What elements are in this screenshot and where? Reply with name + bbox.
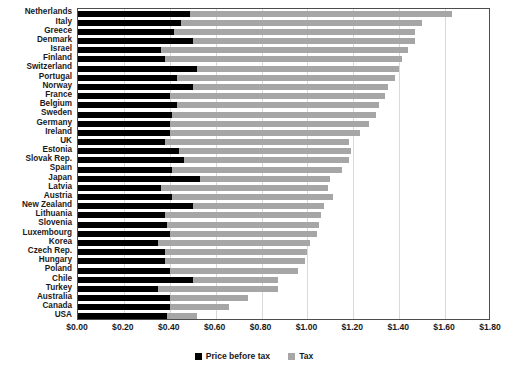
y-axis-label-sweden: Sweden	[41, 109, 72, 117]
bar-row	[78, 167, 342, 173]
bar-row	[78, 139, 349, 145]
y-axis-label-portugal: Portugal	[39, 73, 72, 81]
bar-segment-price-before-tax	[78, 66, 197, 72]
legend-item[interactable]: Price before tax	[195, 352, 270, 361]
legend-label: Price before tax	[206, 352, 270, 361]
bar-segment-tax	[170, 121, 370, 127]
bar-series-group	[78, 9, 489, 319]
bar-segment-price-before-tax	[78, 167, 172, 173]
bar-segment-price-before-tax	[78, 157, 184, 163]
bar-segment-price-before-tax	[78, 212, 165, 218]
bar-row	[78, 11, 452, 17]
y-axis-label-denmark: Denmark	[37, 36, 72, 44]
legend-swatch-icon	[288, 353, 295, 360]
y-axis-label-australia: Australia	[37, 293, 72, 301]
bar-segment-price-before-tax	[78, 11, 190, 17]
x-axis-tick-100: $1.00	[296, 322, 318, 332]
bar-segment-tax	[165, 212, 321, 218]
y-axis-label-new-zealand: New Zealand	[22, 201, 72, 209]
bar-segment-price-before-tax	[78, 249, 165, 255]
bar-segment-price-before-tax	[78, 47, 161, 53]
y-axis-label-korea: Korea	[49, 238, 72, 246]
bar-segment-tax	[158, 240, 309, 246]
bar-row	[78, 148, 351, 154]
bar-row	[78, 313, 197, 319]
x-axis-tick-120: $1.20	[342, 322, 364, 332]
bar-segment-tax	[193, 38, 416, 44]
bar-segment-tax	[193, 203, 324, 209]
bar-row	[78, 231, 317, 237]
y-axis-label-turkey: Turkey	[46, 284, 72, 292]
bar-segment-price-before-tax	[78, 75, 177, 81]
y-axis-label-spain: Spain	[50, 164, 72, 172]
y-axis-label-italy: Italy	[56, 18, 72, 26]
bar-row	[78, 75, 395, 81]
y-axis-label-luxembourg: Luxembourg	[22, 229, 72, 237]
bar-row	[78, 121, 369, 127]
bar-row	[78, 277, 278, 283]
bar-row	[78, 203, 324, 209]
bar-segment-price-before-tax	[78, 268, 170, 274]
x-axis-tick-040: $0.40	[158, 322, 180, 332]
legend-item[interactable]: Tax	[288, 352, 313, 361]
y-axis-label-poland: Poland	[45, 265, 72, 273]
bar-segment-price-before-tax	[78, 20, 181, 26]
legend-label: Tax	[299, 352, 313, 361]
y-axis-label-norway: Norway	[42, 82, 72, 90]
bar-segment-tax	[170, 231, 317, 237]
x-axis-tick-140: $1.40	[387, 322, 409, 332]
diesel-price-stacked-bar-chart: NetherlandsItalyGreeceDenmarkIsraelFinla…	[0, 0, 508, 367]
bar-segment-tax	[197, 66, 399, 72]
bar-row	[78, 304, 229, 310]
y-axis-label-czech-rep: Czech Rep.	[28, 247, 72, 255]
bar-row	[78, 240, 310, 246]
y-axis-label-france: France	[45, 91, 72, 99]
bar-segment-price-before-tax	[78, 112, 172, 118]
bar-row	[78, 112, 376, 118]
bar-segment-price-before-tax	[78, 313, 167, 319]
bar-row	[78, 56, 402, 62]
y-axis-label-finland: Finland	[43, 54, 72, 62]
bar-row	[78, 212, 321, 218]
bar-segment-price-before-tax	[78, 194, 172, 200]
bar-segment-tax	[167, 222, 318, 228]
bar-segment-tax	[181, 20, 422, 26]
bar-segment-tax	[179, 148, 351, 154]
bar-segment-price-before-tax	[78, 222, 167, 228]
bar-segment-tax	[200, 176, 331, 182]
bar-row	[78, 66, 399, 72]
plot-area	[77, 8, 490, 320]
bar-segment-price-before-tax	[78, 295, 170, 301]
bar-segment-tax	[177, 102, 379, 108]
bar-segment-price-before-tax	[78, 139, 165, 145]
bar-segment-tax	[184, 157, 349, 163]
y-axis-label-usa: USA	[55, 311, 72, 319]
bar-segment-tax	[190, 11, 452, 17]
bar-segment-tax	[172, 167, 342, 173]
x-axis-tick-160: $1.60	[433, 322, 455, 332]
bar-segment-tax	[193, 277, 278, 283]
bar-row	[78, 222, 319, 228]
bar-segment-tax	[170, 93, 386, 99]
bar-segment-price-before-tax	[78, 121, 170, 127]
y-axis-label-canada: Canada	[42, 302, 72, 310]
bar-row	[78, 286, 278, 292]
bar-segment-tax	[170, 268, 298, 274]
bar-segment-tax	[172, 112, 376, 118]
bar-segment-tax	[172, 194, 333, 200]
x-axis-tick-020: $0.20	[112, 322, 134, 332]
bar-segment-price-before-tax	[78, 130, 170, 136]
bar-segment-tax	[167, 313, 197, 319]
bar-segment-price-before-tax	[78, 203, 193, 209]
bar-row	[78, 20, 422, 26]
y-axis-label-estonia: Estonia	[42, 146, 72, 154]
y-axis-label-belgium: Belgium	[40, 100, 72, 108]
y-axis-label-hungary: Hungary	[39, 256, 72, 264]
bar-segment-price-before-tax	[78, 84, 193, 90]
y-axis-label-greece: Greece	[44, 27, 72, 35]
y-axis-label-germany: Germany	[37, 119, 73, 127]
bar-row	[78, 268, 298, 274]
bar-row	[78, 157, 349, 163]
bar-segment-tax	[170, 130, 360, 136]
bar-segment-price-before-tax	[78, 176, 200, 182]
